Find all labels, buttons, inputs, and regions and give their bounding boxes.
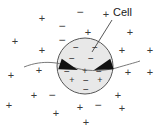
outside-charge-negative: − — [94, 100, 101, 111]
outside-charge-positive: + — [77, 102, 83, 113]
outside-charge-positive: + — [103, 9, 109, 20]
outside-charge-positive: + — [39, 45, 45, 56]
inside-charge-negative: − — [83, 85, 89, 94]
inside-charge-negative: − — [73, 43, 79, 52]
inside-charge-positive: + — [69, 76, 74, 85]
outside-charge-positive: + — [6, 100, 12, 111]
outside-charge-positive: + — [115, 90, 121, 101]
inside-charge-negative: − — [88, 54, 94, 63]
outside-charge-positive: + — [31, 90, 37, 101]
outside-charge-positive: + — [8, 70, 14, 81]
outside-charge-positive: + — [36, 65, 42, 76]
cell-electric-field-diagram: Cell +−+−+++−++++++++−++−++++ −−−−−+−+−+… — [0, 0, 159, 131]
outside-charge-positive: + — [147, 45, 153, 56]
outside-charge-positive: + — [119, 103, 125, 114]
outside-charge-positive: + — [39, 13, 45, 24]
outside-charge-negative: − — [76, 7, 83, 18]
outside-charge-positive: + — [119, 45, 125, 56]
outside-charge-negative: − — [58, 35, 65, 46]
outside-charge-negative: − — [58, 21, 65, 32]
inside-charge-negative: − — [92, 43, 98, 52]
outside-charge-positive: + — [53, 108, 59, 119]
outside-charge-positive: + — [125, 67, 131, 78]
outside-charge-negative: − — [48, 90, 55, 101]
inside-charge-positive: + — [97, 76, 102, 85]
outside-charge-positive: + — [127, 27, 133, 38]
outside-charge-positive: + — [147, 67, 153, 78]
outside-charge-positive: + — [85, 27, 91, 38]
outside-charge-positive: + — [12, 36, 18, 47]
inside-charge-negative: − — [69, 54, 75, 63]
cell-label: Cell — [113, 6, 132, 18]
outside-charge-positive: + — [83, 117, 89, 128]
